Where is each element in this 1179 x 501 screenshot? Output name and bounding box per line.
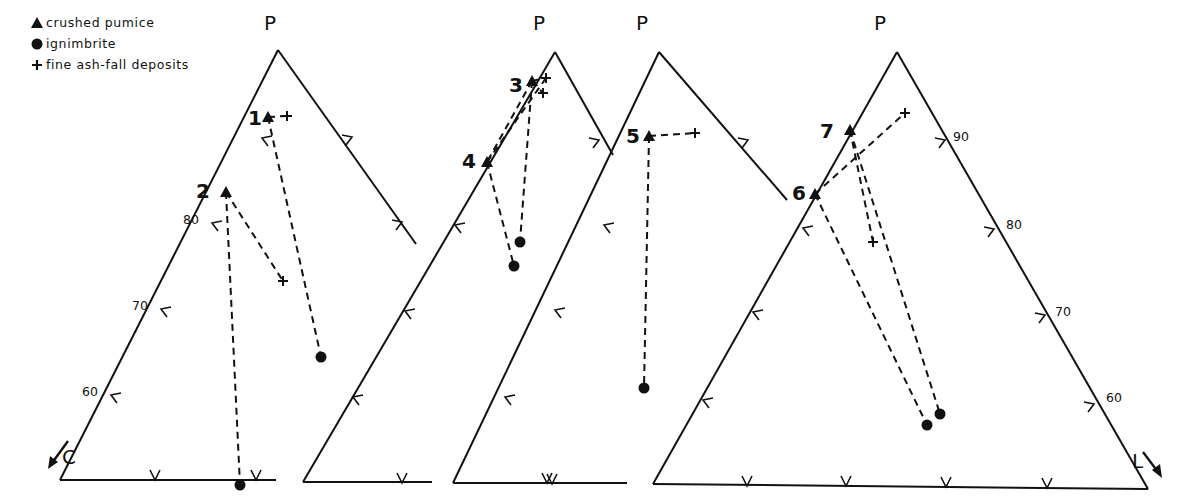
sample-number-label: 3 <box>509 73 523 97</box>
base-axis-tick <box>1042 478 1052 488</box>
axis-label-l: L <box>1132 449 1144 473</box>
sample-number-label: 2 <box>196 179 210 203</box>
tie-line <box>850 130 940 414</box>
tie-line <box>226 192 240 485</box>
tie-line <box>226 192 283 281</box>
diagram-labels: 1234567PPPPCL80706090807060 <box>48 11 1162 478</box>
ashfall-plus-marker <box>278 276 288 286</box>
sample-number-label: 4 <box>462 149 476 173</box>
ignimbrite-circle-marker <box>235 480 246 491</box>
ignimbrite-circle-marker <box>922 420 933 431</box>
pumice-triangle-marker <box>220 186 232 197</box>
left-axis-tick-label: 80 <box>183 212 199 227</box>
data-markers <box>220 73 946 491</box>
base-axis-tick <box>251 470 261 480</box>
ignimbrite-circle-marker <box>935 409 946 420</box>
right-axis-tick <box>984 227 994 237</box>
left-axis-tick <box>455 223 465 233</box>
left-axis-tick <box>604 223 614 233</box>
ashfall-plus-marker <box>900 108 910 118</box>
apex-label-p: P <box>636 11 648 35</box>
left-axis-tick <box>405 309 415 319</box>
sample-number-label: 7 <box>820 119 834 143</box>
apex-label-p: P <box>533 11 545 35</box>
right-axis-tick-label: 80 <box>1006 217 1022 232</box>
left-axis-tick <box>703 398 713 408</box>
ignimbrite-circle-marker <box>639 383 650 394</box>
right-axis-tick <box>1084 402 1094 412</box>
ignimbrite-circle-marker <box>316 352 327 363</box>
tie-line <box>520 81 532 242</box>
left-axis-tick <box>262 136 272 146</box>
right-axis-tick <box>392 220 402 230</box>
triangle-edge <box>659 52 787 200</box>
left-axis-tick <box>555 308 565 318</box>
left-axis-tick <box>753 310 763 320</box>
ashfall-plus-marker <box>690 128 700 138</box>
triangle-edge <box>60 50 278 480</box>
ternary-diagram-plot: 1234567PPPPCL80706090807060 <box>0 0 1179 501</box>
left-axis-tick-label: 70 <box>132 298 148 313</box>
triangle-edge <box>653 484 1148 489</box>
ignimbrite-circle-marker <box>509 261 520 272</box>
triangle-edge <box>555 52 613 155</box>
tie-line <box>644 136 649 388</box>
base-axis-tick <box>150 470 160 480</box>
triangle-edge <box>278 50 416 244</box>
sample-number-label: 1 <box>248 106 262 130</box>
axis-label-c: C <box>62 445 76 469</box>
tie-line <box>850 130 873 242</box>
tie-line <box>649 133 695 136</box>
left-axis-tick <box>353 395 363 405</box>
triangle-edge <box>653 52 897 484</box>
right-axis-tick <box>935 138 945 148</box>
triangle-edge <box>897 52 1148 489</box>
sample-number-label: 5 <box>626 124 640 148</box>
ashfall-plus-marker <box>282 111 292 121</box>
sample-number-label: 6 <box>792 181 806 205</box>
base-axis-tick <box>841 476 851 486</box>
left-axis-tick <box>111 393 121 403</box>
left-axis-tick <box>161 307 171 317</box>
axis-ticks <box>111 135 1094 488</box>
left-axis-tick <box>803 226 813 236</box>
tie-line <box>487 162 514 266</box>
tie-line <box>268 117 321 357</box>
right-axis-tick-label: 60 <box>1106 390 1122 405</box>
left-axis-tick <box>212 221 222 231</box>
apex-label-p: P <box>874 11 886 35</box>
right-axis-tick <box>1035 313 1045 323</box>
base-axis-tick <box>941 477 951 487</box>
ignimbrite-circle-marker <box>515 237 526 248</box>
ashfall-plus-marker <box>868 237 878 247</box>
apex-label-p: P <box>264 11 276 35</box>
left-axis-tick <box>505 395 515 405</box>
ashfall-plus-marker <box>538 88 548 98</box>
right-axis-tick-label: 90 <box>953 129 969 144</box>
right-axis-tick <box>589 138 599 148</box>
right-axis-tick-label: 70 <box>1055 304 1071 319</box>
triangle-frames <box>60 50 1148 489</box>
triangle-edge <box>453 52 659 483</box>
left-axis-tick-label: 60 <box>82 384 98 399</box>
